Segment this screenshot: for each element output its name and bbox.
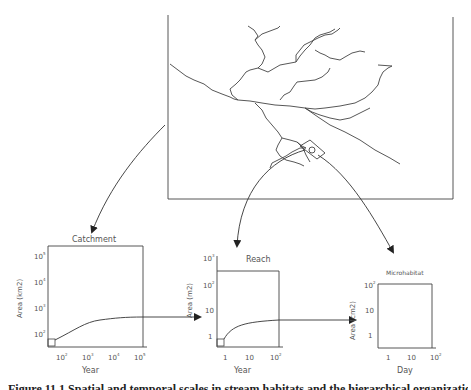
- svg-text:102: 102: [34, 329, 46, 339]
- axis-label-catchment-y: Area (km2): [16, 279, 24, 318]
- arrow-to-microhabitat: [318, 155, 393, 252]
- svg-text:10: 10: [407, 354, 416, 362]
- svg-text:10: 10: [365, 307, 374, 315]
- svg-text:102: 102: [364, 280, 376, 290]
- svg-text:102: 102: [270, 352, 282, 362]
- map-frame: [168, 15, 453, 199]
- svg-text:104: 104: [108, 352, 120, 362]
- svg-text:103: 103: [203, 253, 215, 263]
- svg-text:1: 1: [223, 354, 227, 362]
- svg-text:103: 103: [34, 303, 46, 313]
- axis-label-reach-y: Area (m2): [186, 283, 194, 318]
- axis-label-microhabitat-x: Day: [397, 366, 413, 375]
- svg-text:104: 104: [34, 277, 46, 287]
- scale-arrows: [92, 125, 393, 252]
- svg-text:102: 102: [430, 352, 442, 362]
- svg-text:105: 105: [34, 251, 46, 261]
- svg-text:10: 10: [205, 307, 214, 315]
- svg-text:105: 105: [134, 352, 146, 362]
- river-map: [168, 15, 453, 199]
- panel-reach: Reach 103 102 10 1 1 10 102 Area (m2) Ye…: [186, 253, 355, 375]
- reach-curve-arrow: [224, 320, 355, 339]
- panel-title-reach: Reach: [246, 255, 271, 264]
- axis-label-microhabitat-y: Area (cm2): [349, 301, 357, 340]
- svg-text:102: 102: [56, 352, 68, 362]
- panel-title-catchment: Catchment: [72, 235, 116, 244]
- catchment-curve-arrow: [55, 317, 200, 340]
- panel-title-microhabitat: Microhabitat: [386, 269, 424, 276]
- figure-caption: Figure 11.1 Spatial and temporal scales …: [8, 379, 468, 390]
- panel-catchment: Catchment 105 104 103 102 102 103 104 10…: [16, 235, 200, 375]
- diagram-canvas: Catchment 105 104 103 102 102 103 104 10…: [0, 0, 471, 390]
- svg-text:1: 1: [208, 333, 212, 341]
- svg-text:1: 1: [368, 332, 372, 340]
- svg-text:10: 10: [245, 354, 254, 362]
- axis-label-reach-x: Year: [233, 366, 252, 375]
- axis-label-catchment-x: Year: [81, 366, 100, 375]
- arrow-to-catchment: [92, 125, 165, 232]
- svg-text:1: 1: [386, 354, 390, 362]
- svg-text:102: 102: [203, 280, 215, 290]
- svg-text:103: 103: [82, 352, 94, 362]
- panel-microhabitat: Microhabitat 102 10 1 1 10 102 Area (cm2…: [349, 269, 442, 375]
